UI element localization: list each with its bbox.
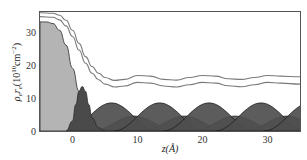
y-tick-label: 0: [31, 126, 36, 137]
x-tick-label: 20: [198, 134, 208, 145]
y-tick-label: 20: [26, 60, 36, 71]
plot-area: [40, 13, 307, 131]
y-axis-label: ρere(1010cm−2): [10, 43, 24, 102]
x-axis-label: z(Å): [161, 143, 179, 155]
x-tick-label: 10: [133, 134, 143, 145]
density-profile-chart: 0102030 0102030 z(Å) ρere(1010cm−2): [0, 0, 307, 160]
y-tick-label: 30: [26, 27, 36, 38]
svg-text:ρere(1010cm−2): ρere(1010cm−2): [10, 43, 24, 102]
x-tick-label: 30: [263, 134, 273, 145]
x-tick-label: 0: [70, 134, 75, 145]
y-axis-ticks: 0102030: [26, 27, 36, 137]
profile-line: [40, 13, 300, 81]
y-tick-label: 10: [26, 93, 36, 104]
